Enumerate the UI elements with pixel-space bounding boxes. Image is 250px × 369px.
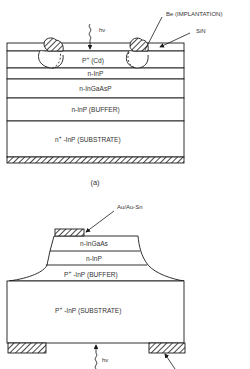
contact-label: Au/Au-Sn bbox=[117, 204, 143, 210]
photodiode-diagrams: hν Be (IMPLANTATION) SiN P+ (Cd) n-InP n… bbox=[0, 0, 250, 369]
caption-a: (a) bbox=[90, 178, 100, 187]
sin-label: SiN bbox=[196, 28, 206, 34]
bottom-contact-right bbox=[149, 343, 185, 353]
label-n-ingaas: n-InGaAs bbox=[80, 240, 109, 247]
au-contact bbox=[55, 229, 84, 236]
implant-label: Be (IMPLANTATION) bbox=[166, 11, 222, 17]
label-n-ingaasp: n-InGaAsP bbox=[79, 85, 112, 92]
light-label-a: hν bbox=[99, 27, 105, 33]
light-label-b: hν bbox=[102, 357, 108, 363]
label-substrate: n+ -InP (SUBSTRATE) bbox=[55, 134, 121, 144]
label-p-inp-substrate: P+ -InP (SUBSTRATE) bbox=[55, 305, 121, 315]
label-n-inp: n-InP bbox=[88, 70, 104, 77]
bottom-contact bbox=[7, 157, 184, 163]
contact-leader bbox=[86, 211, 114, 232]
label-p-region: P+ (Cd) bbox=[82, 55, 104, 65]
bottom-contact-leader bbox=[165, 354, 175, 369]
sin-layer bbox=[7, 43, 184, 51]
bottom-contact-left bbox=[8, 343, 46, 353]
label-p-inp-buffer: P+ -InP (BUFFER) bbox=[64, 269, 118, 279]
figure-a: hν Be (IMPLANTATION) SiN P+ (Cd) n-InP n… bbox=[7, 11, 222, 187]
light-arrow-icon-b bbox=[95, 345, 97, 369]
label-n-inp-b: n-InP bbox=[86, 255, 102, 262]
figure-b: Au/Au-Sn n-InGaAs n-InP P+ -InP (BUFFER)… bbox=[7, 204, 185, 369]
label-n-inp-buffer: n-InP (BUFFER) bbox=[71, 106, 119, 114]
